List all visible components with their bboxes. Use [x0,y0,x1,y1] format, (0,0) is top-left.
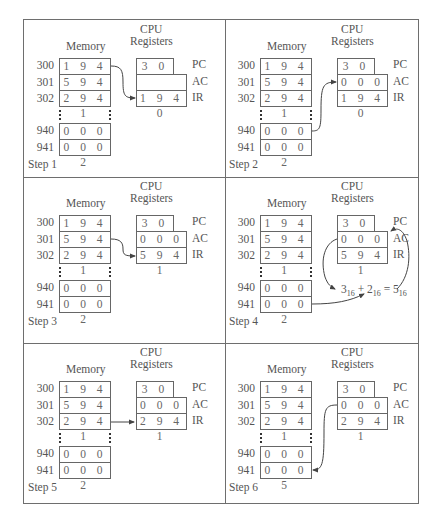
formula-b_base: 16 [373,289,381,298]
step-panel-3: Memory CPU Registers 300 301 302 940 941… [24,177,224,342]
step-panel-5: Memory CPU Registers 300 301 302 940 941… [24,343,224,508]
step-panel-6: Memory CPU Registers 300 301 302 940 941… [225,343,425,508]
formula-c_base: 16 [399,289,407,298]
addition-formula: 316 + 216 = 516 [341,283,407,298]
formula-plus: + [358,283,365,295]
formula-a_base: 16 [347,289,355,298]
data-flow-arrow-icon [24,177,224,342]
step-panel-1: Memory CPU Registers 300 301 302 940 941… [24,20,224,185]
step-panel-4: Memory CPU Registers 300 301 302 940 941… [225,177,425,342]
formula-eq: = [384,283,391,295]
data-flow-arrow-icon [24,343,224,508]
data-flow-arrow-icon [225,343,425,508]
data-flow-arrow-icon [225,20,425,185]
step-panel-2: Memory CPU Registers 300 301 302 940 941… [225,20,425,185]
data-flow-arrow-icon [225,177,425,342]
data-flow-arrow-icon [24,20,224,185]
